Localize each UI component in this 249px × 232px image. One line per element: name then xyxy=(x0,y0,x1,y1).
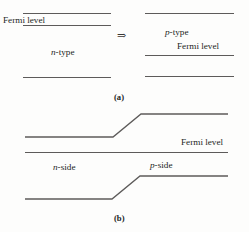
panel-b-n-side-label: n-side xyxy=(53,163,75,172)
energy-band-diagram-figure: Fermi level n-type ⇒ p-type Fermi level … xyxy=(0,0,249,232)
panel-a-right-valence-band-line xyxy=(145,76,234,77)
panel-b-n-side-suffix: -side xyxy=(58,162,76,172)
panel-a-left-material-label: n-type xyxy=(51,48,74,57)
panel-a-left-valence-band-line xyxy=(23,77,111,78)
panel-a-right-fermi-level-line xyxy=(145,55,234,56)
panel-a-caption: (a) xyxy=(114,92,124,102)
panel-a-right-conduction-band-line xyxy=(145,13,234,14)
panel-a-right-material-suffix: -type xyxy=(170,27,189,37)
panel-b-caption: (b) xyxy=(114,213,125,223)
panel-b-fermi-level-line xyxy=(25,152,228,153)
panel-b-p-side-label: p-side xyxy=(150,161,172,170)
panel-b-valence-band-path xyxy=(25,176,228,199)
panel-a-right-fermi-label: Fermi level xyxy=(177,42,219,51)
panel-a-left-conduction-band-line xyxy=(23,13,111,14)
panel-b-p-side-suffix: -side xyxy=(155,160,173,170)
panel-a-left-fermi-label: Fermi level xyxy=(3,16,45,25)
panel-b-conduction-band-path xyxy=(25,114,228,137)
panel-b-fermi-label: Fermi level xyxy=(181,138,223,147)
panel-a-right-material-label: p-type xyxy=(165,28,188,37)
transition-arrow-icon: ⇒ xyxy=(117,30,126,41)
panel-a-left-material-suffix: -type xyxy=(56,47,75,57)
